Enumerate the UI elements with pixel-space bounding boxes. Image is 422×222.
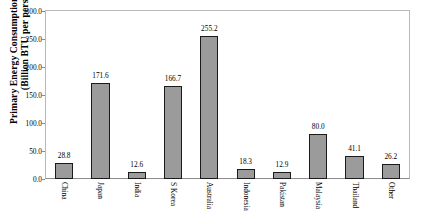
bar-value-label: 41.1 — [348, 144, 361, 153]
x-label-slot: Japan — [82, 180, 118, 222]
bar-slot: 28.8 — [55, 11, 73, 179]
x-axis-tick-label: Pakistan — [277, 182, 286, 207]
x-label-slot: Pakistan — [264, 180, 300, 222]
x-label-slot: China — [46, 180, 82, 222]
x-label-slot: Thailand — [336, 180, 372, 222]
x-label-slot: India — [119, 180, 155, 222]
y-axis-tick-label: 250.0 — [26, 35, 42, 44]
bar-slot: 171.6 — [91, 11, 109, 179]
x-axis-tick-label: Malaysia — [314, 182, 323, 209]
bar-value-label: 26.2 — [384, 152, 397, 161]
y-axis-tick-mark — [42, 179, 45, 180]
bar[interactable] — [345, 156, 363, 179]
x-axis-tick-label: S Korea — [169, 182, 178, 206]
bar-slot: 26.2 — [382, 11, 400, 179]
bar-slot: 166.7 — [164, 11, 182, 179]
bar-value-label: 28.8 — [58, 151, 71, 160]
bar[interactable] — [382, 164, 400, 179]
y-axis-tick-label: 0.0 — [33, 175, 42, 184]
x-label-slot: S Korea — [155, 180, 191, 222]
y-axis-tick-label: 100.0 — [26, 119, 42, 128]
bars-layer: 28.8171.612.6166.7255.218.312.980.041.12… — [46, 11, 409, 179]
x-label-slot: Australia — [191, 180, 227, 222]
x-axis-tick-label: China — [60, 182, 69, 200]
bar-value-label: 80.0 — [312, 122, 325, 131]
x-axis-tick-label: India — [132, 182, 141, 197]
x-label-slot: Malaysia — [300, 180, 336, 222]
x-axis-tick-label: Other — [386, 182, 395, 199]
bar[interactable] — [91, 83, 109, 179]
bar-chart: Primary Energy Consumption per capita (B… — [0, 0, 422, 222]
bar[interactable] — [309, 134, 327, 179]
bar-value-label: 171.6 — [92, 71, 108, 80]
bar-value-label: 166.7 — [165, 74, 181, 83]
y-axis-tick-label: 150.0 — [26, 91, 42, 100]
bar-value-label: 18.3 — [239, 157, 252, 166]
bar-slot: 18.3 — [237, 11, 255, 179]
bar[interactable] — [55, 163, 73, 179]
bar[interactable] — [200, 36, 218, 179]
x-axis-tick-label: Japan — [96, 182, 105, 199]
bar-slot: 255.2 — [200, 11, 218, 179]
bar-slot: 80.0 — [309, 11, 327, 179]
bar[interactable] — [164, 86, 182, 179]
x-axis-tick-label: Thailand — [350, 182, 359, 208]
x-label-slot: Other — [373, 180, 409, 222]
x-axis-tick-label: Indonesia — [241, 182, 250, 211]
bar[interactable] — [273, 172, 291, 179]
y-axis-tick-label: 200.0 — [26, 63, 42, 72]
bar-value-label: 12.9 — [276, 160, 289, 169]
x-label-slot: Indonesia — [228, 180, 264, 222]
y-axis-tick-labels: 0.050.0100.0150.0200.0250.0300.0 — [0, 0, 45, 179]
bar-value-label: 255.2 — [201, 24, 217, 33]
x-axis-tick-labels: ChinaJapanIndiaS KoreaAustraliaIndonesia… — [46, 180, 409, 222]
bar-slot: 41.1 — [345, 11, 363, 179]
bar[interactable] — [237, 169, 255, 179]
bar[interactable] — [128, 172, 146, 179]
y-axis-tick-label: 300.0 — [26, 7, 42, 16]
bar-value-label: 12.6 — [130, 160, 143, 169]
bar-slot: 12.9 — [273, 11, 291, 179]
bar-slot: 12.6 — [128, 11, 146, 179]
x-axis-tick-label: Australia — [205, 182, 214, 209]
y-axis-tick-label: 50.0 — [29, 147, 42, 156]
